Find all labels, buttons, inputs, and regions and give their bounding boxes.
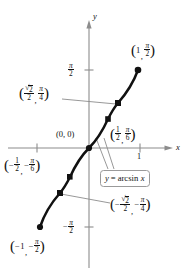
fraction-pi-over-2: π 2 [34, 238, 40, 254]
fraction-denominator: 2 [24, 93, 34, 102]
fraction-pi-over-2: π 2 [68, 62, 74, 78]
dot-1-over-2-pi-over-6 [105, 116, 111, 122]
fraction-1-over-2: 1 2 [14, 157, 20, 173]
fraction-numerator: π [125, 126, 131, 134]
point-label-1-over-2-pi-over-6: ( 1 2 , π 6 ) [110, 126, 136, 142]
minus-sign-y: − [24, 161, 29, 170]
comma: , [25, 248, 27, 257]
x-axis-arrowhead [165, 145, 174, 150]
point-label-neg-sqrt2-over-2-neg-pi-over-4: ( − √2 2 , − π 4 ) [110, 196, 151, 213]
fraction-denominator: 4 [140, 204, 146, 213]
x-value: 1 [20, 242, 24, 251]
point-label-1-pi-over-2: ( 1 , π 2 ) [131, 42, 155, 58]
y-tick-label-pi-over-2: π 2 [68, 62, 74, 78]
square-root-icon: √2 [121, 196, 129, 205]
minus-sign-y: − [29, 242, 34, 251]
radical-sign: √ [121, 195, 125, 203]
point-label-origin: (0, 0) [56, 130, 74, 139]
fraction-numerator: π [68, 62, 74, 70]
minus-sign-x: − [115, 200, 120, 209]
radical-sign: √ [25, 84, 29, 92]
plot-canvas [0, 0, 189, 277]
point-label-sqrt2-over-2-pi-over-4: ( √2 2 , π 4 ) [19, 85, 49, 102]
equation-equals: = [111, 173, 116, 183]
fraction-pi-over-2: π 2 [68, 219, 74, 235]
minus-sign-y: − [135, 200, 140, 209]
point-label-neg-1-neg-pi-over-2: ( − 1 , − π 2 ) [10, 238, 45, 254]
leader-line-neg-sqrt2-over-2 [61, 194, 110, 203]
fraction-sqrt2-over-2: √2 2 [24, 85, 34, 102]
minus-sign-x: − [9, 161, 14, 170]
comma: , [21, 167, 23, 176]
minus-sign-x: − [15, 242, 20, 251]
x-tick-label-1: 1 [137, 153, 141, 161]
fraction-denominator: 2 [120, 204, 130, 213]
fraction-numerator: π [34, 238, 40, 246]
y-axis-label: y [93, 12, 97, 21]
point-label-neg-1-over-2-neg-pi-over-6: ( − 1 2 , − π 6 ) [4, 157, 40, 173]
fraction-denominator: 6 [125, 133, 131, 142]
fraction-denominator: 2 [68, 226, 74, 235]
fraction-numerator: √2 [24, 85, 34, 94]
dot-1-pi-over-2 [135, 67, 142, 74]
fraction-denominator: 2 [115, 133, 121, 142]
square-root-icon: √2 [25, 85, 33, 94]
dot-neg-sqrt2-over-2-neg-pi-over-4 [57, 190, 63, 196]
fraction-denominator: 2 [34, 245, 40, 254]
fraction-numerator: √2 [120, 196, 130, 205]
fraction-pi-over-6: π 6 [125, 126, 131, 142]
y-axis-arrowhead [86, 20, 91, 29]
comma: , [131, 207, 133, 216]
dot-neg-1-over-2-neg-pi-over-6 [67, 174, 73, 180]
comma: , [141, 52, 143, 61]
fraction-numerator: 1 [14, 157, 20, 165]
equation-callout-box: y=arcsinx [100, 170, 150, 187]
fraction-sqrt2-over-2: √2 2 [120, 196, 130, 213]
x-value: 1 [136, 46, 140, 55]
minus-sign: − [63, 222, 68, 231]
equation-function-name: arcsin [118, 173, 139, 183]
comma: , [35, 96, 37, 105]
fraction-numerator: π [68, 219, 74, 227]
fraction-numerator: 1 [115, 126, 121, 134]
fraction-pi-over-4: π 4 [140, 196, 146, 212]
equation-lhs: y [105, 173, 109, 183]
dot-sqrt2-over-2-pi-over-4 [115, 100, 121, 106]
comma: , [121, 136, 123, 145]
y-tick-label-neg-pi-over-2: − π 2 [63, 219, 74, 235]
fraction-1-over-2: 1 2 [115, 126, 121, 142]
dot-neg-1-neg-pi-over-2 [37, 224, 43, 230]
fraction-numerator: π [140, 196, 146, 204]
fraction-denominator: 2 [68, 69, 74, 78]
arcsin-graph-figure: y x π 2 − π 2 1 ( 1 , π 2 ) ( [0, 0, 189, 277]
leader-line-arcsin-b [104, 138, 114, 169]
fraction-denominator: 2 [14, 164, 20, 173]
leader-line-arcsin-a [96, 138, 108, 169]
dot-origin [86, 145, 92, 151]
x-axis-label: x [176, 143, 180, 152]
equation-variable: x [141, 173, 145, 183]
